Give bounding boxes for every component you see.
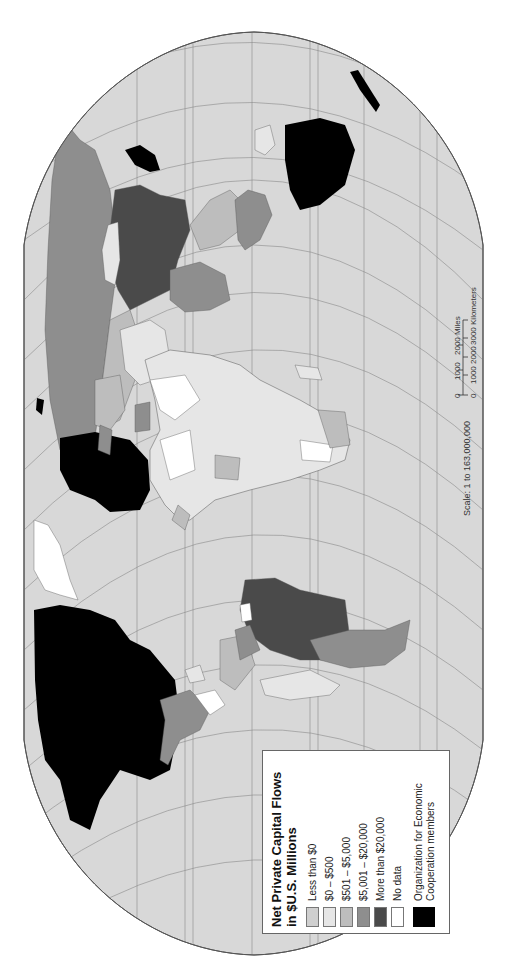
scale-miles-2000: 2000 Miles (453, 316, 462, 355)
swatch-less-than-0 (306, 907, 319, 927)
legend-item-more-than-20000: More than $20,000 (373, 817, 387, 927)
swatch-5001-20000 (357, 907, 370, 927)
swatch-501-5000 (340, 907, 353, 927)
oecd-label: Organization for Economic Cooperation me… (413, 783, 437, 901)
legend-label: $0 – $500 (324, 857, 335, 902)
legend-label: Less than $0 (307, 844, 318, 901)
legend-item-501-5000: $501 – $5,000 (339, 837, 353, 927)
swatch-no-data (391, 907, 404, 927)
swatch-more-than-20000 (374, 907, 387, 927)
scale-km-1000: 1000 (469, 366, 478, 384)
region-guianas (240, 603, 252, 622)
legend-label: $501 – $5,000 (341, 837, 352, 901)
region-turkey (98, 425, 112, 455)
swatch-oecd (413, 907, 435, 927)
legend-item-no-data: No data (390, 866, 404, 927)
legend-title-line1: Net Private Capital Flows (269, 749, 284, 927)
legend-label: $5,001 – $20,000 (358, 823, 369, 901)
legend-label: No data (392, 866, 403, 901)
legend-item-5001-20000: $5,001 – $20,000 (356, 823, 370, 927)
legend-title: Net Private Capital Flows in $U.S. Milli… (269, 749, 299, 927)
scale-km-3000: 3000 Kilometers (469, 287, 478, 345)
legend-label: More than $20,000 (375, 817, 386, 901)
scale-km-0: 0 (469, 394, 478, 398)
scale-km-2000: 2000 (469, 346, 478, 364)
legend: Net Private Capital Flows in $U.S. Milli… (262, 750, 450, 934)
scale-miles-0: 0 (453, 394, 462, 398)
legend-item-less-than-0: Less than $0 (305, 844, 319, 927)
legend-item-oecd: Organization for Economic Cooperation me… (413, 783, 437, 927)
legend-item-0-500: $0 – $500 (322, 857, 336, 928)
oecd-label-line2: Cooperation members (425, 783, 437, 901)
region-nigeria (215, 455, 240, 480)
region-egypt (135, 402, 150, 432)
scale-text: Scale: 1 to 163,000,000 (462, 421, 472, 516)
swatch-0-500 (323, 907, 336, 927)
oecd-label-line1: Organization for Economic (413, 783, 425, 901)
scale-miles-1000: 1000 (453, 362, 462, 380)
legend-title-line2: in $U.S. Millions (284, 749, 299, 927)
